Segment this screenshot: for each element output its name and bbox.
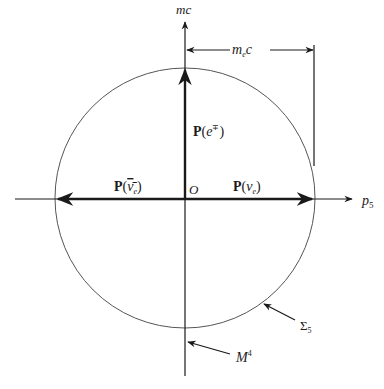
electron-vector-label: P(e∓)	[193, 123, 224, 140]
mc-label: mc	[176, 2, 191, 17]
origin-label: O	[189, 182, 199, 197]
antineutrino-vector-label: P(ν̄e)	[114, 179, 142, 196]
m4-pointer	[188, 342, 230, 354]
momentum-diagram: mc p5 O mec P(e∓) P(νe) P(ν̄e) Σ5 M4	[0, 0, 384, 389]
sigma5-pointer	[264, 304, 295, 320]
neutrino-vector-label: P(νe)	[233, 179, 261, 196]
dimension-label: mec	[232, 42, 253, 59]
m4-label: M4	[235, 349, 252, 365]
sigma5-label: Σ5	[300, 318, 312, 335]
p5-label: p5	[361, 193, 374, 210]
